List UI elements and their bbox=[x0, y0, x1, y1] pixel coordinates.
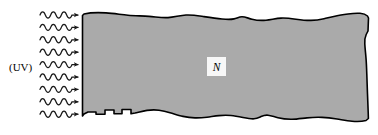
diagram-canvas: (UV) N bbox=[0, 0, 378, 135]
wavy-arrow-icon bbox=[40, 24, 78, 30]
wavy-arrow-icon bbox=[40, 49, 78, 55]
wavy-arrow-icon bbox=[40, 99, 78, 105]
uv-ray-group bbox=[40, 12, 78, 117]
wavy-arrow-icon bbox=[40, 74, 78, 80]
wavy-arrow-icon bbox=[40, 37, 78, 43]
wavy-arrow-icon bbox=[40, 86, 78, 92]
uv-source-label: (UV) bbox=[9, 61, 33, 74]
wavy-arrow-icon bbox=[40, 111, 78, 117]
region-label-n: N bbox=[212, 61, 222, 73]
wavy-arrow-icon bbox=[40, 12, 78, 18]
wavy-arrow-icon bbox=[40, 62, 78, 68]
ultraviolet-material-diagram: (UV) N bbox=[0, 0, 378, 135]
